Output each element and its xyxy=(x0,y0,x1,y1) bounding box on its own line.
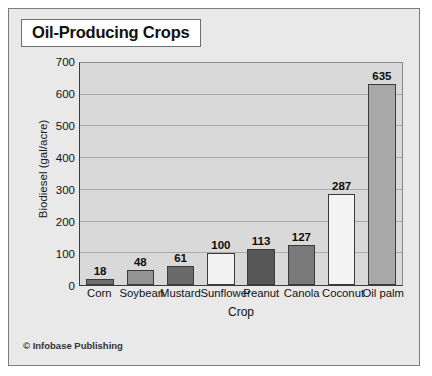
bar[interactable] xyxy=(127,270,154,285)
bar-value-label: 48 xyxy=(120,256,160,268)
y-axis-tick-labels: 700 600 500 400 300 200 100 0 xyxy=(47,62,75,286)
bar-slot: 127 xyxy=(281,63,321,285)
x-axis-title: Crop xyxy=(79,305,403,319)
y-tick-label: 400 xyxy=(56,152,75,164)
x-tick-label: Peanut xyxy=(241,287,282,299)
x-tick-label: Sunflower xyxy=(201,287,242,299)
bar-value-label: 635 xyxy=(362,70,402,82)
chart-title-plate: Oil-Producing Crops xyxy=(21,19,201,47)
bar[interactable] xyxy=(86,279,113,285)
bar-chart: Biodiesel (gal/acre) 700 600 500 400 300… xyxy=(9,53,421,321)
x-tick-label: Mustard xyxy=(160,287,201,299)
bar-slot: 287 xyxy=(322,63,362,285)
x-tick-label: Oil palm xyxy=(363,287,404,299)
bar[interactable] xyxy=(247,249,274,285)
x-tick-label: Soybean xyxy=(120,287,161,299)
bar[interactable] xyxy=(288,245,315,285)
bar-value-label: 113 xyxy=(241,235,281,247)
bar-slot: 61 xyxy=(161,63,201,285)
bar[interactable] xyxy=(368,84,395,285)
bar-slot: 113 xyxy=(241,63,281,285)
x-tick-label: Canola xyxy=(282,287,323,299)
bar-slot: 635 xyxy=(362,63,402,285)
y-tick-label: 300 xyxy=(56,184,75,196)
x-tick-label: Corn xyxy=(79,287,120,299)
bar[interactable] xyxy=(207,253,234,285)
y-tick-label: 700 xyxy=(56,56,75,68)
copyright-credit: © Infobase Publishing xyxy=(23,340,123,351)
bar-value-label: 127 xyxy=(281,231,321,243)
bar-value-label: 100 xyxy=(201,239,241,251)
bar[interactable] xyxy=(328,194,355,285)
x-tick-label: Coconut xyxy=(322,287,363,299)
bar-series: 184861100113127287635 xyxy=(80,63,402,285)
y-tick-label: 200 xyxy=(56,216,75,228)
figure-frame: Oil-Producing Crops Biodiesel (gal/acre)… xyxy=(8,8,420,366)
bar[interactable] xyxy=(167,266,194,285)
bar-value-label: 61 xyxy=(161,252,201,264)
bar-value-label: 287 xyxy=(322,180,362,192)
y-tick-label: 600 xyxy=(56,88,75,100)
plot-area: 184861100113127287635 xyxy=(79,62,403,286)
x-axis-tick-labels: CornSoybeanMustardSunflowerPeanutCanolaC… xyxy=(79,287,403,305)
bar-slot: 100 xyxy=(201,63,241,285)
bar-value-label: 18 xyxy=(80,265,120,277)
y-tick-label: 500 xyxy=(56,120,75,132)
bar-slot: 18 xyxy=(80,63,120,285)
y-tick-label: 0 xyxy=(69,280,75,292)
y-tick-label: 100 xyxy=(56,248,75,260)
bar-slot: 48 xyxy=(120,63,160,285)
page-title: Oil-Producing Crops xyxy=(32,24,190,41)
